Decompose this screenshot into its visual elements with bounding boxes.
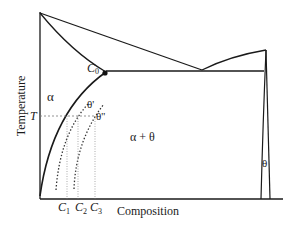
y-axis-label: Temperature	[14, 76, 28, 136]
c3-label: C3	[90, 200, 102, 216]
c2-label: C2	[75, 200, 87, 216]
theta-prime-solvus	[56, 104, 88, 190]
c0-label: C0	[87, 61, 99, 76]
c2-subscript: 2	[83, 207, 87, 216]
theta-left-boundary	[261, 50, 266, 199]
phase-label-alpha: α	[47, 89, 54, 104]
phase-label-alpha-theta: α + θ	[130, 130, 155, 144]
x-axis-label: Composition	[117, 204, 179, 218]
theta-right-boundary	[266, 50, 270, 199]
c0-subscript: 0	[95, 67, 99, 76]
temperature-mark-label: T	[30, 109, 38, 123]
phase-label-theta-double-prime: θ''	[96, 110, 105, 122]
phase-label-theta: θ	[262, 157, 267, 169]
c0-point	[102, 70, 107, 75]
c1-label: C1	[58, 200, 70, 216]
phase-diagram: Temperature Composition α α + θ θ θ' θ''…	[0, 0, 304, 225]
phase-label-theta-prime: θ'	[87, 98, 94, 110]
liquidus-left	[40, 13, 202, 70]
c3-subscript: 3	[98, 207, 102, 216]
solidus-curve	[40, 13, 106, 72]
liquidus-right	[202, 50, 266, 70]
c1-subscript: 1	[66, 207, 70, 216]
